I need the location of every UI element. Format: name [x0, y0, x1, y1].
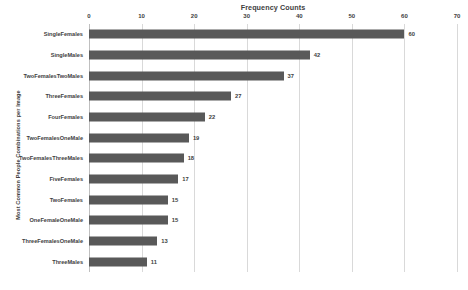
x-axis-tick-label: 50	[349, 13, 356, 19]
bar-row: TwoFemales15	[0, 189, 468, 210]
category-label: TwoFemalesOneMale	[27, 135, 83, 141]
bar-row: TwoFemalesThreeMales18	[0, 148, 468, 169]
category-label: SingleFemales	[44, 31, 83, 37]
category-label: TwoFemalesThreeMales	[19, 155, 83, 161]
bar	[89, 112, 205, 121]
category-label: OneFemaleOneMale	[30, 217, 83, 223]
x-axis-tick-label: 20	[191, 13, 198, 19]
bar	[89, 30, 404, 39]
bar	[89, 216, 168, 225]
bar-value-label: 15	[172, 217, 178, 223]
bar	[89, 50, 310, 59]
bar-row: OneFemaleOneMale15	[0, 210, 468, 231]
bar-value-label: 42	[314, 52, 320, 58]
bar	[89, 154, 184, 163]
category-label: ThreeFemalesOneMale	[22, 238, 83, 244]
bar-value-label: 22	[209, 114, 215, 120]
bar	[89, 236, 157, 245]
x-axis-tick-label: 0	[87, 13, 90, 19]
bar-value-label: 17	[182, 176, 188, 182]
bar-value-label: 15	[172, 197, 178, 203]
bar-row: ThreeFemalesOneMale13	[0, 231, 468, 252]
bar-row: TwoFemalesTwoMales37	[0, 65, 468, 86]
bar	[89, 174, 178, 183]
bar-chart: Frequency Counts Most Common People Comb…	[0, 0, 468, 290]
bar-value-label: 11	[151, 259, 157, 265]
bar	[89, 71, 284, 80]
category-label: ThreeMales	[52, 259, 83, 265]
bar-row: FiveFemales17	[0, 169, 468, 190]
bar-value-label: 13	[161, 238, 167, 244]
bar-row: SingleFemales60	[0, 24, 468, 45]
bar-value-label: 27	[235, 93, 241, 99]
category-label: TwoFemalesTwoMales	[24, 73, 83, 79]
chart-title: Frequency Counts	[89, 3, 457, 12]
bar	[89, 195, 168, 204]
bar-row: TwoFemalesOneMale19	[0, 127, 468, 148]
x-axis-tick-label: 70	[454, 13, 461, 19]
category-label: FourFemales	[48, 114, 83, 120]
category-label: FiveFemales	[49, 176, 83, 182]
bar-row: SingleMales42	[0, 45, 468, 66]
bar	[89, 257, 147, 266]
bar-value-label: 37	[288, 73, 294, 79]
x-axis-tick-label: 60	[401, 13, 408, 19]
x-axis-tick-label: 40	[296, 13, 303, 19]
x-axis-tick-label: 10	[138, 13, 145, 19]
bar-row: FourFemales22	[0, 107, 468, 128]
category-label: SingleMales	[51, 52, 83, 58]
category-label: TwoFemales	[50, 197, 83, 203]
category-label: ThreeFemales	[45, 93, 83, 99]
bar-value-label: 18	[188, 155, 194, 161]
bar-value-label: 19	[193, 135, 199, 141]
bar-row: ThreeFemales27	[0, 86, 468, 107]
bar	[89, 92, 231, 101]
x-axis-tick-label: 30	[243, 13, 250, 19]
bar	[89, 133, 189, 142]
bar-rows: SingleFemales60SingleMales42TwoFemalesTw…	[0, 24, 468, 272]
bar-value-label: 60	[408, 31, 414, 37]
bar-row: ThreeMales11	[0, 251, 468, 272]
